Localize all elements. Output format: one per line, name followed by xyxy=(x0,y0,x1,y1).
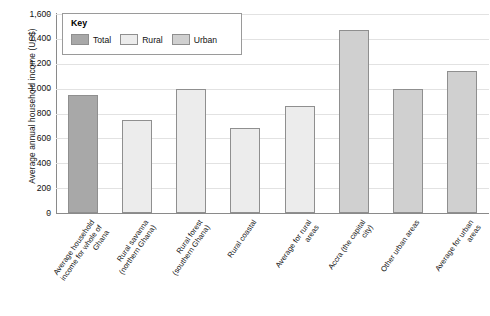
x-axis-tick-label: Rural forest(southern Ghana) xyxy=(163,218,212,277)
x-axis-tick-label-line: Other urban areas xyxy=(378,218,421,274)
y-axis-tick-mark xyxy=(47,64,51,65)
gridline xyxy=(56,64,489,65)
legend-item: Total xyxy=(71,34,111,45)
y-axis-tick-label: 1,600 xyxy=(5,10,51,19)
legend-swatch xyxy=(120,34,138,45)
x-axis-tick-label: Average for ruralareas xyxy=(273,218,320,275)
bar xyxy=(447,71,477,213)
legend-swatch xyxy=(172,34,190,45)
legend-swatch xyxy=(71,34,89,45)
legend-title: Key xyxy=(71,18,87,28)
x-axis-tick-label: Average householdincome for whole ofGhan… xyxy=(51,218,111,288)
bar xyxy=(339,30,369,213)
y-axis-tick-label: 1,000 xyxy=(5,84,51,93)
y-axis-tick-mark xyxy=(47,163,51,164)
y-axis-tick-label: 200 xyxy=(5,184,51,193)
y-axis-tick-label: 1,200 xyxy=(5,59,51,68)
y-axis-tick-mark xyxy=(47,213,51,214)
y-axis-tick-mark xyxy=(47,114,51,115)
bar xyxy=(230,128,260,213)
gridline xyxy=(56,188,489,189)
x-axis-tick-label: Rural coastal xyxy=(226,218,259,260)
gridline xyxy=(56,138,489,139)
y-axis-tick-label: 600 xyxy=(5,134,51,143)
y-axis-tick-labels: 02004006008001,0001,2001,4001,600 xyxy=(0,14,51,213)
x-axis-tick-label: Average for urbanareas xyxy=(433,218,483,278)
bar xyxy=(68,95,98,213)
legend-label: Total xyxy=(93,35,111,45)
y-axis-tick-mark xyxy=(47,39,51,40)
gridline xyxy=(56,163,489,164)
bar xyxy=(393,89,423,213)
y-axis-tick-label: 1,400 xyxy=(5,34,51,43)
bar xyxy=(122,120,152,213)
x-axis-tick-label: Accra (the capitalcity) xyxy=(326,218,375,277)
legend-label: Rural xyxy=(142,35,163,45)
x-axis-tick-label-line: Rural coastal xyxy=(226,218,259,260)
y-axis-tick-mark xyxy=(47,89,51,90)
y-axis-tick-label: 800 xyxy=(5,109,51,118)
legend: Key TotalRuralUrban xyxy=(62,13,242,55)
y-axis-tick-label: 400 xyxy=(5,159,51,168)
y-axis-tick-mark xyxy=(47,188,51,189)
legend-item: Urban xyxy=(172,34,217,45)
y-axis-tick-label: 0 xyxy=(5,209,51,218)
legend-label: Urban xyxy=(194,35,217,45)
bar xyxy=(176,89,206,213)
gridline xyxy=(56,114,489,115)
bar-chart: Average annual household income (US$) 02… xyxy=(0,0,490,316)
y-axis-tick-mark xyxy=(47,14,51,15)
x-axis-tick-labels: Average householdincome for whole ofGhan… xyxy=(56,214,489,316)
x-axis-tick-label: Rural savanna(northern Ghana) xyxy=(110,218,158,276)
gridline xyxy=(56,89,489,90)
legend-items: TotalRuralUrban xyxy=(71,34,217,45)
x-axis-tick-label: Other urban areas xyxy=(378,218,421,274)
bar xyxy=(285,106,315,213)
y-axis-tick-mark xyxy=(47,138,51,139)
legend-item: Rural xyxy=(120,34,163,45)
